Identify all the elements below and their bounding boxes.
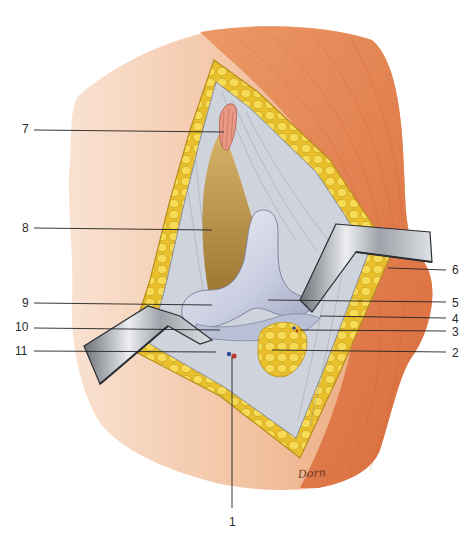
label-1: 1 [229, 516, 236, 528]
label-5: 5 [452, 297, 459, 309]
label-7: 7 [22, 123, 29, 135]
vein-dot [227, 352, 231, 356]
label-4: 4 [452, 313, 459, 325]
vessel-dot-right-red [296, 330, 299, 333]
illustration-canvas [0, 0, 474, 547]
label-11: 11 [15, 345, 27, 357]
label-10: 10 [15, 321, 28, 333]
anatomical-illustration: 1 2 3 4 5 6 7 8 9 10 11 Dorn [0, 0, 474, 547]
label-3: 3 [452, 326, 459, 338]
label-2: 2 [452, 347, 459, 359]
label-9: 9 [22, 297, 29, 309]
label-8: 8 [22, 222, 29, 234]
artist-signature: Dorn [298, 466, 327, 481]
label-6: 6 [452, 264, 459, 276]
vessel-dot-right [292, 326, 296, 330]
